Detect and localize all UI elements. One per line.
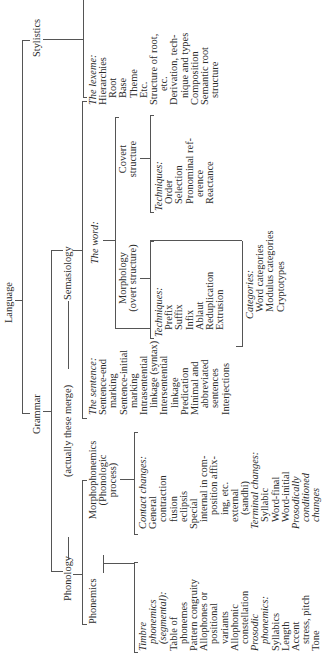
node-morphophonemics: Morphophonemics (Phonologic process) — [88, 431, 119, 529]
connector — [150, 241, 151, 339]
list-item: changes — [311, 452, 321, 529]
connector — [236, 346, 242, 347]
list-item: Interjections — [221, 341, 231, 415]
connector — [83, 0, 84, 98]
covert-techniques-list: Techniques: Order Selection Pronominal r… — [154, 138, 215, 211]
connector — [73, 574, 82, 575]
list-item: Cryptotypes — [276, 230, 286, 319]
connector — [103, 563, 134, 564]
connector — [68, 537, 69, 559]
node-subtitle: structure — [128, 129, 138, 189]
categories-list: Categories: Word categories Modulus cate… — [245, 230, 286, 319]
connector — [115, 117, 116, 329]
connector — [150, 240, 242, 241]
list-item: Structure of root, — [149, 33, 159, 105]
phonemics-list: Timbre phonemics (segmental): Table of p… — [138, 579, 322, 651]
node-language: Language — [4, 282, 14, 323]
connector — [134, 432, 135, 535]
connector — [103, 240, 115, 241]
connector — [22, 40, 23, 414]
connector — [15, 300, 22, 301]
connector — [134, 562, 138, 563]
morphophonemics-list: Contact changes: General contraction fus… — [138, 452, 322, 529]
connector — [150, 338, 154, 339]
connector — [82, 101, 83, 419]
node-subtitle: (overt structure) — [128, 223, 138, 333]
node-morphology: Morphology (overt structure) — [118, 223, 138, 333]
connector — [43, 411, 51, 412]
connector — [134, 432, 138, 433]
connector — [120, 479, 134, 480]
connector — [82, 418, 87, 419]
lexeme-list-body: Hierarchies Root Base Theme Etc. Structu… — [98, 33, 220, 105]
node-phonology: Phonology — [63, 556, 73, 601]
node-the-word: The word: — [90, 221, 100, 264]
list-item: Reactance — [205, 138, 215, 211]
node-covert-structure: Covert structure — [118, 129, 138, 189]
stylistics-list: . — [88, 96, 98, 99]
connector — [73, 250, 82, 251]
language-tree-diagram: Language Grammar Stylistics Phonology (a… — [0, 0, 334, 659]
connector — [134, 563, 135, 653]
merge-note: (actually these merge) — [63, 385, 73, 477]
connector — [150, 115, 151, 213]
connector — [82, 624, 87, 625]
connector — [150, 115, 154, 116]
morphology-techniques-list: Techniques: Prefix Suffix Infix Ablaut R… — [154, 272, 225, 337]
connector — [115, 117, 119, 118]
node-grammar: Grammar — [32, 394, 42, 434]
connector — [68, 301, 69, 369]
connector — [134, 652, 138, 653]
connector — [103, 555, 104, 573]
connector — [150, 241, 154, 242]
connector — [134, 534, 138, 535]
connector — [140, 278, 150, 279]
list-item: Extrusion — [215, 272, 225, 337]
connector — [140, 158, 150, 159]
node-stylistics: Stylistics — [32, 19, 42, 57]
connector — [82, 480, 83, 625]
sentence-list: The sentence: Sentence-end marking Sente… — [88, 341, 231, 415]
list-item: structure — [210, 33, 220, 105]
node-semasiology: Semasiology — [63, 246, 73, 300]
connector — [43, 39, 83, 40]
connector — [150, 212, 154, 213]
connector — [51, 250, 52, 572]
list-item: Tone — [311, 579, 321, 651]
node-phonemics: Phonemics — [88, 578, 98, 624]
connector — [22, 40, 30, 41]
connector — [22, 413, 30, 414]
connector — [242, 241, 243, 347]
node-subtitle: process) — [108, 431, 118, 529]
